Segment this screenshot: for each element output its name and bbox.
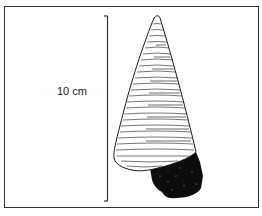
shell-illustration — [0, 0, 262, 216]
scale-bar — [104, 16, 108, 201]
